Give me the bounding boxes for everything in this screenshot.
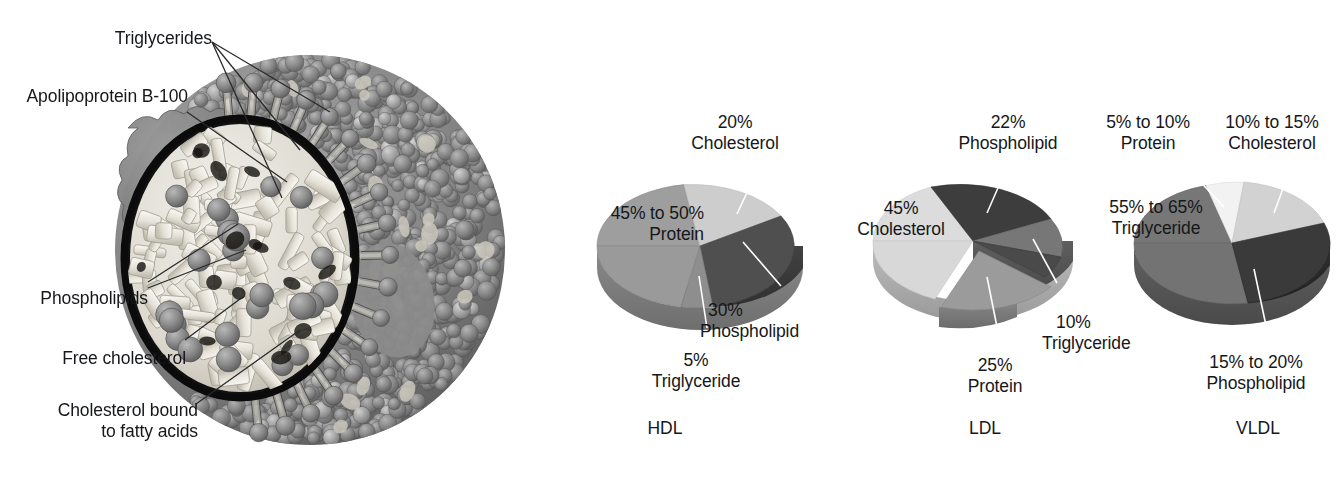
- label-cholesterol-bound-line2: to fatty acids: [6, 421, 198, 442]
- hdl-triglyceride-pct: 5%: [618, 350, 774, 371]
- vldl-phospholipid-name: Phospholipid: [1186, 373, 1326, 394]
- vldl-label-triglyceride: 55% to 65% Triglyceride: [1092, 197, 1220, 239]
- hdl-triglyceride-name: Triglyceride: [618, 371, 774, 392]
- label-phospholipids-text: Phospholipids: [40, 288, 148, 308]
- ldl-phospholipid-pct: 22%: [920, 112, 1096, 133]
- vldl-protein-pct: 5% to 10%: [1092, 112, 1204, 133]
- vldl-label-cholesterol: 10% to 15% Cholesterol: [1208, 112, 1336, 154]
- vldl-cholesterol-name: Cholesterol: [1208, 133, 1336, 154]
- hdl-phospholipid-name: Phospholipid: [700, 321, 860, 342]
- vldl-triglyceride-name: Triglyceride: [1092, 218, 1220, 239]
- ldl-protein-pct: 25%: [930, 355, 1060, 376]
- hdl-phospholipid-pct: 30%: [700, 300, 860, 321]
- label-triglycerides-text: Triglycerides: [115, 28, 212, 48]
- label-cholesterol-bound-line1: Cholesterol bound: [6, 400, 198, 421]
- vldl-phospholipid-pct: 15% to 20%: [1186, 352, 1326, 373]
- hdl-protein-pct: 45% to 50%: [562, 203, 704, 224]
- vldl-label-protein: 5% to 10% Protein: [1092, 112, 1204, 154]
- lipoprotein-figure: Triglycerides Apolipoprotein B-100 Phosp…: [0, 0, 1342, 481]
- label-free-cholesterol-text: Free cholesterol: [62, 348, 186, 368]
- label-phospholipids: Phospholipids: [6, 288, 148, 309]
- hdl-label-cholesterol: 20% Cholesterol: [650, 112, 820, 154]
- ldl-chart-title: LDL: [925, 418, 1045, 439]
- label-triglycerides: Triglycerides: [40, 28, 212, 49]
- ldl-cholesterol-pct: 45%: [838, 198, 964, 219]
- vldl-chart-title: VLDL: [1198, 418, 1318, 439]
- hdl-cholesterol-name: Cholesterol: [650, 133, 820, 154]
- label-cholesterol-bound-fatty-acids: Cholesterol bound to fatty acids: [6, 400, 198, 442]
- ldl-label-phospholipid: 22% Phospholipid: [920, 112, 1096, 154]
- hdl-label-triglyceride: 5% Triglyceride: [618, 350, 774, 392]
- ldl-cholesterol-name: Cholesterol: [838, 219, 964, 240]
- vldl-pie-chart: [1128, 165, 1338, 355]
- hdl-label-protein: 45% to 50% Protein: [562, 203, 704, 245]
- vldl-triglyceride-pct: 55% to 65%: [1092, 197, 1220, 218]
- label-apolipoprotein-b100-text: Apolipoprotein B-100: [27, 86, 188, 106]
- ldl-label-cholesterol: 45% Cholesterol: [838, 198, 964, 240]
- hdl-chart-title: HDL: [605, 418, 725, 439]
- label-free-cholesterol: Free cholesterol: [6, 348, 186, 369]
- ldl-label-protein: 25% Protein: [930, 355, 1060, 397]
- ldl-phospholipid-name: Phospholipid: [920, 133, 1096, 154]
- ldl-protein-name: Protein: [930, 376, 1060, 397]
- hdl-label-phospholipid: 30% Phospholipid: [700, 300, 860, 342]
- hdl-cholesterol-pct: 20%: [650, 112, 820, 133]
- vldl-cholesterol-pct: 10% to 15%: [1208, 112, 1336, 133]
- hdl-protein-name: Protein: [562, 224, 704, 245]
- vldl-protein-name: Protein: [1092, 133, 1204, 154]
- vldl-label-phospholipid: 15% to 20% Phospholipid: [1186, 352, 1326, 394]
- label-apolipoprotein-b100: Apolipoprotein B-100: [8, 86, 188, 107]
